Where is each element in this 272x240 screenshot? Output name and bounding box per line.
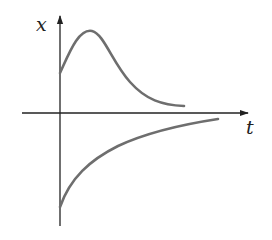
solution-curves-diagram: x t <box>0 0 272 240</box>
t-axis-label: t <box>246 116 254 138</box>
upper-solution-curve <box>60 31 184 106</box>
lower-solution-curve <box>60 119 218 207</box>
x-axis-label: x <box>36 13 47 35</box>
